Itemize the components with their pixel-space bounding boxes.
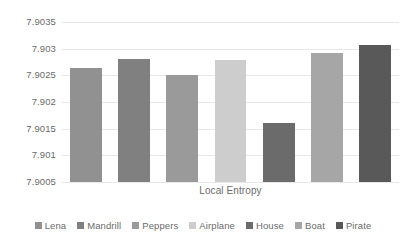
plot-area xyxy=(62,22,399,182)
legend-item-house[interactable]: House xyxy=(246,221,284,231)
bar-slot xyxy=(158,22,206,182)
y-axis-tick-label: 7.9015 xyxy=(0,124,56,134)
bar-slot xyxy=(110,22,158,182)
x-axis-title: Local Entropy xyxy=(62,186,399,196)
bar-slot xyxy=(303,22,351,182)
bar-peppers[interactable] xyxy=(166,75,198,182)
legend-item-label: House xyxy=(256,221,284,231)
legend-swatch-icon xyxy=(132,222,139,229)
legend-swatch-icon xyxy=(295,222,302,229)
y-axis-tick-label: 7.9025 xyxy=(0,71,56,81)
bar-slot xyxy=(351,22,399,182)
legend-swatch-icon xyxy=(246,222,253,229)
y-axis-labels: 7.90357.9037.90257.9027.90157.9017.9005 xyxy=(0,22,56,182)
bar-airplane[interactable] xyxy=(215,60,247,182)
gridline xyxy=(62,182,399,183)
bar-series xyxy=(62,22,399,182)
legend-item-label: Pirate xyxy=(346,221,371,231)
y-axis-tick-label: 7.9035 xyxy=(0,17,56,27)
legend-swatch-icon xyxy=(336,222,343,229)
legend-item-label: Airplane xyxy=(199,221,235,231)
bar-slot xyxy=(206,22,254,182)
legend-item-label: Lena xyxy=(45,221,67,231)
bar-slot xyxy=(255,22,303,182)
y-axis-tick-label: 7.9005 xyxy=(0,177,56,187)
bar-mandrill[interactable] xyxy=(118,59,150,182)
legend-item-label: Boat xyxy=(305,221,325,231)
legend-swatch-icon xyxy=(77,222,84,229)
y-axis-tick-label: 7.902 xyxy=(0,97,56,107)
bar-pirate[interactable] xyxy=(359,45,391,182)
legend-item-label: Peppers xyxy=(142,221,178,231)
legend-item-label: Mandrill xyxy=(87,221,121,231)
bar-chart: 7.90357.9037.90257.9027.90157.9017.9005 … xyxy=(0,0,406,243)
legend: LenaMandrillPeppersAirplaneHouseBoatPira… xyxy=(0,221,406,231)
y-axis-tick-label: 7.903 xyxy=(0,44,56,54)
legend-item-peppers[interactable]: Peppers xyxy=(132,221,178,231)
legend-swatch-icon xyxy=(35,222,42,229)
legend-item-lena[interactable]: Lena xyxy=(35,221,67,231)
legend-item-boat[interactable]: Boat xyxy=(295,221,325,231)
y-axis-tick-label: 7.901 xyxy=(0,151,56,161)
legend-item-mandrill[interactable]: Mandrill xyxy=(77,221,121,231)
legend-item-pirate[interactable]: Pirate xyxy=(336,221,371,231)
bar-boat[interactable] xyxy=(311,53,343,182)
bar-slot xyxy=(62,22,110,182)
legend-item-airplane[interactable]: Airplane xyxy=(189,221,235,231)
legend-swatch-icon xyxy=(189,222,196,229)
bar-house[interactable] xyxy=(263,123,295,182)
bar-lena[interactable] xyxy=(70,68,102,182)
